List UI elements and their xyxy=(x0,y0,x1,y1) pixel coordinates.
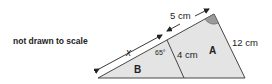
five-cm-arrow-left xyxy=(167,24,180,31)
similar-triangles-diagram: x 5 cm 65° 4 cm 12 cm A B xyxy=(0,0,272,84)
x-label: x xyxy=(125,47,132,58)
inner-side-label: 4 cm xyxy=(177,49,198,60)
region-A-label: A xyxy=(209,45,216,56)
five-cm-label: 5 cm xyxy=(170,10,191,21)
region-B-label: B xyxy=(134,64,141,75)
outer-side-label: 12 cm xyxy=(232,37,258,48)
large-triangle xyxy=(98,14,245,78)
angle-label: 65° xyxy=(155,49,166,56)
five-cm-arrow-right xyxy=(195,9,209,16)
